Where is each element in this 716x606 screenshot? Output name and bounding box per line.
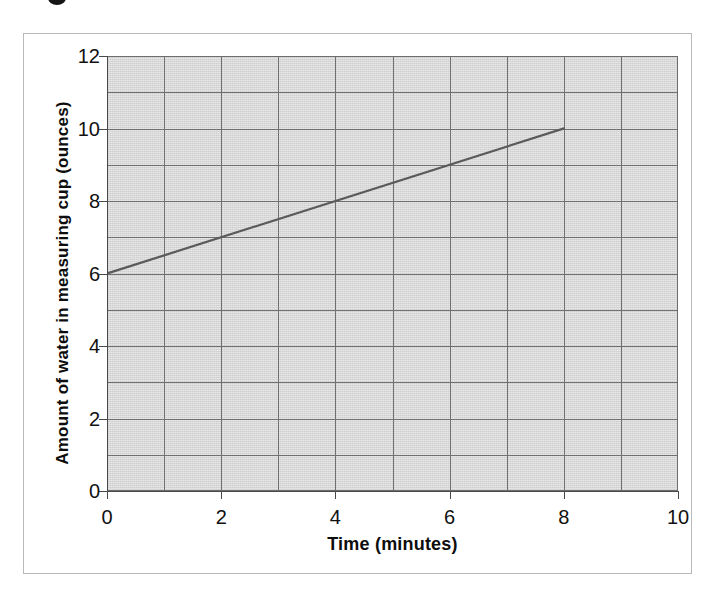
x-tick-label: 2 — [196, 507, 246, 527]
x-axis-title: Time (minutes) — [107, 534, 678, 555]
scan-ink-mark-icon — [48, 0, 66, 5]
y-axis-title: Amount of water in measuring cup (ounces… — [53, 66, 73, 501]
x-tick-label: 4 — [310, 507, 360, 527]
x-tick-label: 6 — [425, 507, 475, 527]
chart-figure-frame: 024681012 0246810 Time (minutes) Amount … — [23, 33, 692, 574]
x-tick-label: 8 — [539, 507, 589, 527]
x-axis-tick-labels: 0246810 — [24, 34, 693, 575]
x-tick-label: 0 — [82, 507, 132, 527]
x-tick-label: 10 — [653, 507, 703, 527]
